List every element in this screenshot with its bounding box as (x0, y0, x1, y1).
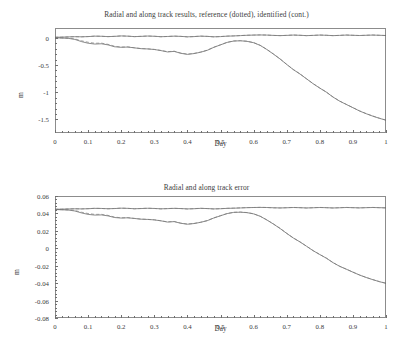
x-tick-minor (346, 131, 347, 133)
x-tick-minor (260, 131, 261, 133)
x-tick-minor (214, 131, 215, 133)
y-tick-label: 0 (0, 245, 49, 252)
y-tick-mark (55, 266, 58, 267)
y-tick-minor (55, 262, 57, 263)
y-tick-mark (55, 301, 58, 302)
x-tick-minor (340, 316, 341, 318)
y-tick-minor (55, 304, 57, 305)
curve-along-track-error-identified (55, 210, 386, 284)
x-tick-minor (293, 131, 294, 133)
y-tick-label: -1 (0, 89, 49, 96)
x-tick-minor (313, 131, 314, 133)
plot-curves-top (0, 0, 413, 178)
x-tick-minor (340, 131, 341, 133)
x-tick-minor (326, 316, 327, 318)
x-tick-mark (287, 315, 288, 318)
x-tick-minor (168, 316, 169, 318)
x-tick-mark (386, 130, 387, 133)
y-tick-label: -0.06 (0, 297, 49, 304)
y-tick-minor (55, 294, 57, 295)
x-tick-minor (148, 131, 149, 133)
x-tick-minor (379, 316, 380, 318)
curve-along-track-error-reference (55, 210, 386, 284)
x-tick-minor (128, 131, 129, 133)
y-tick-minor (55, 290, 57, 291)
y-tick-mark (55, 248, 58, 249)
y-tick-label: -0.5 (0, 61, 49, 68)
y-tick-mark (55, 231, 58, 232)
y-tick-minor (55, 238, 57, 239)
y-tick-label: -0.02 (0, 262, 49, 269)
x-tick-minor (379, 131, 380, 133)
x-tick-minor (115, 131, 116, 133)
x-tick-mark (154, 130, 155, 133)
y-tick-minor (55, 54, 57, 55)
y-tick-minor (55, 287, 57, 288)
x-tick-minor (333, 316, 334, 318)
x-tick-minor (333, 131, 334, 133)
x-tick-mark (154, 315, 155, 318)
x-tick-minor (360, 131, 361, 133)
x-tick-mark (55, 315, 56, 318)
y-tick-minor (55, 81, 57, 82)
x-tick-minor (260, 316, 261, 318)
y-tick-minor (55, 269, 57, 270)
x-tick-minor (267, 131, 268, 133)
curve-along-track-reference (55, 38, 386, 120)
x-tick-minor (373, 131, 374, 133)
figure-two-stacked-line-charts: Radial and along track results, referenc… (0, 0, 413, 355)
y-tick-mark (55, 92, 58, 93)
x-tick-minor (148, 316, 149, 318)
x-tick-minor (227, 131, 228, 133)
x-tick-minor (201, 131, 202, 133)
y-tick-minor (55, 98, 57, 99)
y-tick-minor (55, 255, 57, 256)
x-tick-minor (75, 131, 76, 133)
x-tick-minor (280, 316, 281, 318)
y-tick-minor (55, 276, 57, 277)
y-tick-minor (55, 109, 57, 110)
y-tick-mark (55, 213, 58, 214)
y-tick-minor (55, 308, 57, 309)
y-tick-minor (55, 280, 57, 281)
y-tick-mark (55, 283, 58, 284)
x-tick-minor (68, 316, 69, 318)
y-tick-minor (55, 103, 57, 104)
x-tick-minor (101, 131, 102, 133)
x-tick-minor (81, 131, 82, 133)
chart-panel-radial-along-track-results: Radial and along track results, referenc… (0, 0, 413, 178)
x-tick-minor (280, 131, 281, 133)
x-tick-mark (353, 315, 354, 318)
y-tick-minor (55, 210, 57, 211)
x-tick-minor (247, 131, 248, 133)
x-tick-minor (81, 316, 82, 318)
x-tick-mark (254, 315, 255, 318)
y-tick-label: 0.02 (0, 227, 49, 234)
x-tick-minor (234, 131, 235, 133)
x-tick-minor (62, 316, 63, 318)
x-tick-minor (174, 131, 175, 133)
x-tick-minor (161, 131, 162, 133)
x-tick-minor (366, 131, 367, 133)
x-tick-minor (366, 316, 367, 318)
x-tick-minor (68, 131, 69, 133)
x-tick-mark (88, 130, 89, 133)
y-tick-minor (55, 76, 57, 77)
y-tick-minor (55, 224, 57, 225)
x-tick-minor (326, 131, 327, 133)
y-tick-minor (55, 311, 57, 312)
x-tick-mark (386, 315, 387, 318)
y-tick-minor (55, 273, 57, 274)
x-tick-minor (207, 316, 208, 318)
y-tick-label: 0 (0, 34, 49, 41)
y-tick-minor (55, 49, 57, 50)
x-tick-minor (141, 131, 142, 133)
x-tick-minor (108, 131, 109, 133)
y-tick-minor (55, 252, 57, 253)
x-tick-mark (55, 130, 56, 133)
y-tick-minor (55, 259, 57, 260)
x-axis-label-top: Day (55, 140, 386, 148)
y-tick-label: -0.04 (0, 280, 49, 287)
x-tick-minor (247, 316, 248, 318)
y-tick-minor (55, 87, 57, 88)
